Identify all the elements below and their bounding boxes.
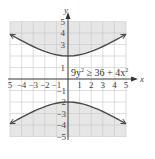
x-tick-label: −2 <box>40 80 50 90</box>
x-tick-label: 1 <box>77 80 82 90</box>
y-tick-label: −2 <box>56 97 66 107</box>
x-tick-label: 5 <box>8 80 13 90</box>
y-tick-label: −5 <box>56 132 66 142</box>
y-tick-label: 3 <box>61 40 66 50</box>
y-tick-label: 1 <box>61 63 66 73</box>
y-tick-label: −3 <box>56 109 66 119</box>
y-tick-label: −1 <box>56 86 66 96</box>
inequality-graph: x y 5−4−3−2−112345 5431−1−2−3−4−5 9y2 ≥ … <box>0 0 155 159</box>
x-tick-label: 5 <box>124 80 129 90</box>
y-axis-label: y <box>63 5 68 15</box>
x-tick-label: 4 <box>112 80 117 90</box>
y-tick-label: 4 <box>61 28 66 38</box>
x-axis-label: x <box>139 74 144 84</box>
y-tick-label: 5 <box>61 17 66 27</box>
inequality-label: 9y2 ≥ 36 + 4x2 <box>71 67 128 78</box>
x-tick-label: 3 <box>101 80 106 90</box>
x-tick-label: −4 <box>17 80 27 90</box>
y-tick-label: −4 <box>56 120 66 130</box>
x-axis-arrow-icon <box>131 77 138 82</box>
x-tick-label: −3 <box>28 80 38 90</box>
x-tick-label: 2 <box>89 80 94 90</box>
